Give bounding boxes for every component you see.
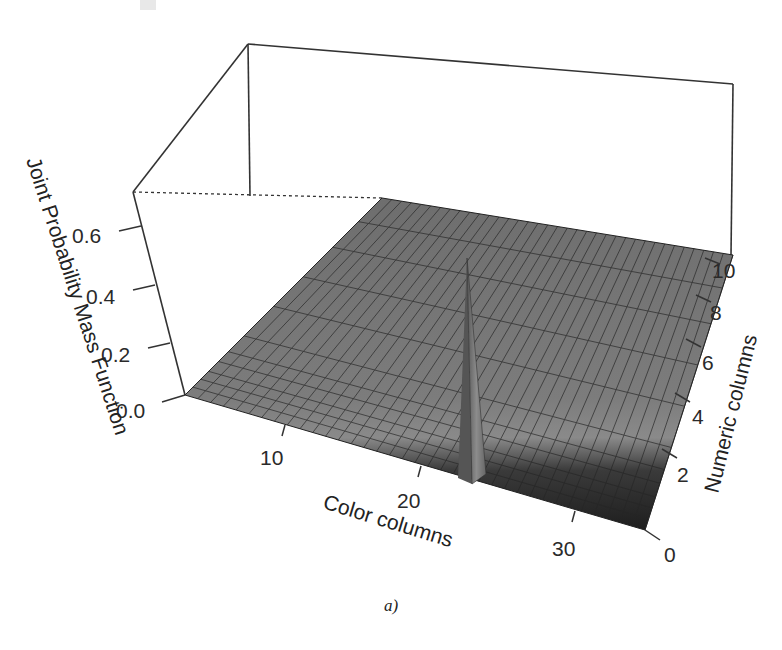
surface-plot: 0.6 0.4 0.2 0.0 Joint Probability Mass F… <box>0 0 782 650</box>
x-axis-title: Color columns <box>321 490 456 551</box>
y-tick-4: 4 <box>692 405 704 428</box>
x-tick-20: 20 <box>397 489 420 512</box>
z-axis-ticks <box>119 226 185 402</box>
background-bleed-text <box>140 0 156 10</box>
figure-caption: a) <box>384 596 399 615</box>
z-tick-0-6: 0.6 <box>72 224 101 247</box>
y-tick-10: 10 <box>712 259 735 282</box>
y-tick-8: 8 <box>710 301 722 324</box>
z-axis-line <box>133 192 185 395</box>
y-tick-2: 2 <box>677 463 689 486</box>
y-tick-0: 0 <box>664 543 676 566</box>
y-tick-6: 6 <box>702 351 714 374</box>
x-tick-10: 10 <box>260 446 283 469</box>
x-tick-30: 30 <box>552 537 575 560</box>
surface <box>185 198 733 530</box>
z-axis-title: Joint Probability Mass Function <box>22 154 134 438</box>
